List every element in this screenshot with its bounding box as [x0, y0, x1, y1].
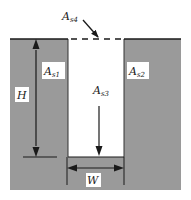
cavity-diagram: As1 As2 As3 As4 H W [0, 0, 191, 200]
as4-label: As4 [61, 10, 78, 24]
width-label: W [87, 174, 100, 187]
height-label: H [16, 89, 27, 102]
cavity [68, 39, 124, 157]
as4-arrow [83, 20, 98, 37]
